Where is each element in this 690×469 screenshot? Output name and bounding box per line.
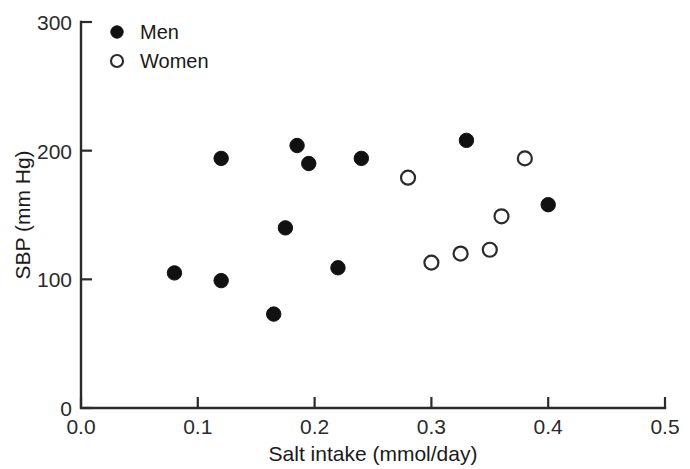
chart-legend: MenWomen <box>111 21 209 72</box>
data-points <box>167 133 555 321</box>
axis-spine <box>81 22 665 408</box>
series-women <box>401 151 532 269</box>
data-point-men-6 <box>302 156 316 170</box>
data-point-men-8 <box>354 151 368 165</box>
data-point-men-10 <box>541 198 555 212</box>
y-tick-label-2: 200 <box>37 140 72 163</box>
data-point-women-2 <box>454 247 468 261</box>
data-point-women-4 <box>494 209 508 223</box>
y-tick-label-3: 300 <box>37 11 72 34</box>
data-point-women-5 <box>518 151 532 165</box>
legend-label-women: Women <box>140 50 209 72</box>
data-point-men-9 <box>459 133 473 147</box>
data-point-men-4 <box>278 221 292 235</box>
x-tick-label-3: 0.3 <box>417 415 446 438</box>
axes <box>81 22 665 408</box>
x-axis-title: Salt intake (mmol/day) <box>269 442 478 465</box>
data-point-women-0 <box>401 171 415 185</box>
y-tick-label-0: 0 <box>60 397 72 420</box>
data-point-men-0 <box>167 266 181 280</box>
x-tick-label-4: 0.4 <box>534 415 564 438</box>
data-point-men-1 <box>214 151 228 165</box>
legend-marker-women <box>111 55 123 67</box>
y-tick-label-1: 100 <box>37 268 72 291</box>
data-point-women-1 <box>424 256 438 270</box>
x-tick-label-5: 0.5 <box>650 415 679 438</box>
axis-ticks <box>81 22 665 408</box>
data-point-men-5 <box>290 138 304 152</box>
x-tick-label-2: 0.2 <box>300 415 329 438</box>
data-point-men-3 <box>267 307 281 321</box>
y-axis-title: SBP (mm Hg) <box>11 150 34 279</box>
x-tick-label-1: 0.1 <box>183 415 212 438</box>
legend-marker-men <box>111 26 123 38</box>
data-point-women-3 <box>483 243 497 257</box>
legend-label-men: Men <box>140 21 179 43</box>
plot-canvas: 0.00.10.20.30.40.50100200300 MenWomen Sa… <box>0 0 690 469</box>
data-point-men-2 <box>214 273 228 287</box>
axis-tick-labels: 0.00.10.20.30.40.50100200300 <box>37 11 680 438</box>
scatter-plot-figure: 0.00.10.20.30.40.50100200300 MenWomen Sa… <box>0 0 690 469</box>
data-point-men-7 <box>331 261 345 275</box>
series-men <box>167 133 555 321</box>
